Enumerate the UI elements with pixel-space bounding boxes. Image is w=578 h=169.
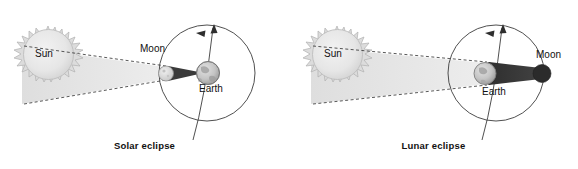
orbit-direction-arrow-icon bbox=[196, 31, 206, 38]
moon-icon bbox=[159, 66, 174, 81]
lunar-moon-label: Moon bbox=[536, 49, 561, 60]
solar-eclipse-panel: Moon Earth Sun Solar eclipse bbox=[0, 0, 289, 169]
solar-earth-label: Earth bbox=[199, 83, 223, 94]
lunar-eclipse-panel: Sun Earth Moon Lunar eclipse bbox=[289, 0, 578, 169]
eclipse-diagram: Moon Earth Sun Solar eclipse bbox=[0, 0, 578, 169]
solar-moon-label: Moon bbox=[140, 43, 165, 54]
earth-globe-icon bbox=[474, 63, 496, 85]
solar-sun-label: Sun bbox=[35, 48, 53, 59]
lunar-eclipse-caption: Lunar eclipse bbox=[289, 140, 578, 151]
earth-globe-icon bbox=[197, 62, 220, 85]
orbit-direction-arrow-icon bbox=[485, 31, 495, 38]
lunar-earth-label: Earth bbox=[482, 86, 506, 97]
moon-icon bbox=[533, 65, 551, 83]
solar-eclipse-caption: Solar eclipse bbox=[0, 140, 289, 151]
lunar-sun-label: Sun bbox=[324, 48, 342, 59]
